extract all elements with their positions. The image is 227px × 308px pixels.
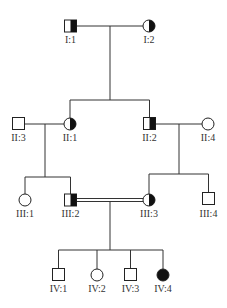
label-III3: III:3 [140,208,158,219]
individual-II2: II:2 [142,118,156,144]
label-IV4: IV:4 [154,283,172,294]
label-III1: III:1 [16,208,34,219]
label-IV3: IV:3 [122,283,140,294]
female-circle-unaffected [91,269,103,281]
label-II4: II:4 [201,132,215,143]
individual-I2: I:2 [143,20,155,45]
label-III4: III:4 [200,208,218,219]
male-square-unaffected [13,118,25,130]
pedigree-chart: I:1 I:2 II:3 II:1 II:2 II:4 III:1 III:2 … [0,0,227,308]
individual-III2: III:2 [62,194,80,219]
label-I2: I:2 [143,34,154,45]
label-I1: I:1 [65,34,76,45]
individual-II4: II:4 [201,118,215,143]
individual-IV4: IV:4 [154,269,172,294]
individual-III4: III:4 [200,193,218,220]
label-II2: II:2 [142,132,156,143]
affected-half-fill [71,20,77,32]
individual-I1: I:1 [65,20,77,45]
connector-lines [25,26,209,269]
individual-IV2: IV:2 [88,269,106,294]
individual-IV1: IV:1 [50,269,68,295]
individual-III1: III:1 [16,194,34,219]
individual-III3: III:3 [140,194,158,219]
male-square-unaffected [53,269,65,281]
label-II3: II:3 [11,132,25,143]
label-IV1: IV:1 [50,283,68,294]
affected-half-fill [149,194,155,206]
female-circle-unaffected [19,194,31,206]
label-II1: II:1 [63,132,77,143]
affected-half-fill [70,118,76,130]
affected-half-fill [149,20,155,32]
female-circle-affected [157,269,169,281]
individual-IV3: IV:3 [122,269,140,295]
male-square-unaffected [125,269,137,281]
affected-half-fill [150,118,156,130]
female-circle-unaffected [202,118,214,130]
label-IV2: IV:2 [88,283,106,294]
individual-II3: II:3 [11,118,25,144]
affected-half-fill [71,194,77,206]
male-square-unaffected [203,193,215,205]
individual-II1: II:1 [63,118,77,143]
label-III2: III:2 [62,208,80,219]
